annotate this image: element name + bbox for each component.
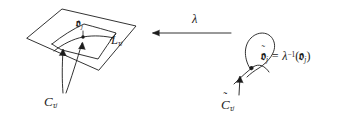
c-tilde-tau-arrow-head xyxy=(237,76,243,83)
curve-label-subsubscript: j xyxy=(56,101,58,109)
tilde-curve-symbol-with-tilde: ˜C xyxy=(221,98,230,111)
node-point-equation: ˜𝔬j = λ−1(𝔬j) xyxy=(261,50,310,64)
node-point-symbol-with-tilde: ˜𝔬 xyxy=(261,50,266,62)
nodal-point xyxy=(249,66,253,70)
tilde-curve-tilde: ˜ xyxy=(223,92,227,104)
c-tau-arrow-right-head xyxy=(79,42,86,49)
node-point-tilde: ˜ xyxy=(262,44,266,55)
equation-equals: = xyxy=(268,49,282,63)
c-tau-arrow-right-shaft xyxy=(66,43,82,93)
plane-label: Lτj xyxy=(111,34,123,48)
plane-label-subsubscript: j xyxy=(121,39,123,46)
leaf-point-subscript: j xyxy=(81,23,83,30)
curve-label: Cτj xyxy=(44,95,58,110)
equation-close-paren: ) xyxy=(306,49,310,63)
map-arrow-label: λ xyxy=(192,13,197,26)
plane-label-symbol: L xyxy=(111,33,118,47)
curve-label-symbol: C xyxy=(44,94,53,109)
math-figure: 𝔬j Lτj Cτj λ ˜𝔬j = λ−1(𝔬j) ˜Cτj xyxy=(0,0,360,127)
map-arrow-head xyxy=(153,30,160,36)
tilde-curve-label: ˜Cτj xyxy=(221,98,235,113)
c-tau-arrow-left-shaft xyxy=(62,50,63,93)
tilde-curve-subsubscript: j xyxy=(233,104,235,112)
leaf-point-label: 𝔬j xyxy=(76,18,83,31)
